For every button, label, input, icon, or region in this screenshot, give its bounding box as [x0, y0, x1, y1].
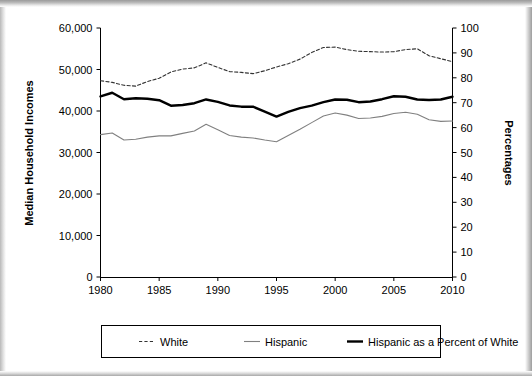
y-axis-right-title: Percentages — [503, 120, 515, 185]
y-tick-label-right: 20 — [461, 221, 473, 233]
legend: WhiteHispanicHispanic as a Percent of Wh… — [102, 326, 519, 358]
data-series-group — [101, 47, 453, 142]
y-tick-label-right: 70 — [461, 97, 473, 109]
chart-page: 010,00020,00030,00040,00050,00060,000 01… — [0, 0, 532, 376]
legend-label-2: Hispanic — [265, 336, 308, 348]
y-axis-left-title: Median Household Incomes — [23, 80, 35, 225]
legend-label-3: Hispanic as a Percent of White — [368, 336, 518, 348]
y-axis-left-ticks: 010,00020,00030,00040,00050,00060,000 — [59, 22, 101, 283]
y-tick-label-left: 60,000 — [59, 22, 93, 34]
y-tick-label-right: 50 — [461, 147, 473, 159]
y-tick-label-left: 10,000 — [59, 230, 93, 242]
x-tick-label: 1980 — [88, 284, 112, 296]
axes — [101, 28, 453, 278]
y-tick-label-left: 50,000 — [59, 64, 93, 76]
x-tick-label: 2005 — [382, 284, 406, 296]
y-tick-label-right: 0 — [461, 271, 467, 283]
y-tick-label-right: 100 — [461, 22, 479, 34]
y-tick-label-left: 0 — [86, 271, 92, 283]
y-tick-label-left: 40,000 — [59, 105, 93, 117]
y-tick-label-right: 30 — [461, 196, 473, 208]
x-tick-label: 1985 — [147, 284, 171, 296]
x-axis-ticks: 1980198519901995200020052010 — [88, 277, 464, 296]
series-line-white — [101, 47, 453, 86]
x-tick-label: 2000 — [323, 284, 347, 296]
legend-label-1: White — [160, 336, 188, 348]
y-tick-label-left: 30,000 — [59, 147, 93, 159]
x-tick-label: 1990 — [206, 284, 230, 296]
y-tick-label-right: 10 — [461, 246, 473, 258]
line-chart: 010,00020,00030,00040,00050,00060,000 01… — [0, 0, 532, 376]
y-tick-label-right: 60 — [461, 122, 473, 134]
y-tick-label-left: 20,000 — [59, 188, 93, 200]
y-axis-right-ticks: 0102030405060708090100 — [453, 22, 479, 283]
x-tick-label: 2010 — [440, 284, 464, 296]
y-tick-label-right: 90 — [461, 47, 473, 59]
y-tick-label-right: 80 — [461, 72, 473, 84]
y-tick-label-right: 40 — [461, 171, 473, 183]
x-tick-label: 1995 — [264, 284, 288, 296]
